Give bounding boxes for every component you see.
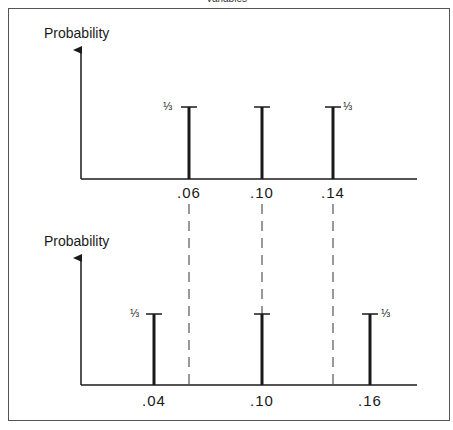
top-prob-label-left: ⅓ bbox=[163, 100, 172, 112]
top-y-axis-label: Probability bbox=[44, 25, 109, 41]
top-prob-label-right: ⅓ bbox=[343, 100, 352, 112]
bottom-tick-16: .16 bbox=[358, 392, 382, 409]
top-chart bbox=[81, 50, 417, 179]
chart-graphics bbox=[0, 0, 453, 430]
top-tick-06: .06 bbox=[177, 184, 201, 201]
bottom-prob-label-left: ⅓ bbox=[130, 307, 139, 319]
bottom-prob-label-right: ⅓ bbox=[381, 307, 390, 319]
top-tick-10: .10 bbox=[250, 184, 274, 201]
top-tick-14: .14 bbox=[321, 184, 345, 201]
bottom-chart bbox=[81, 258, 417, 385]
bottom-y-axis-label: Probability bbox=[44, 233, 109, 249]
bottom-tick-04: .04 bbox=[142, 392, 166, 409]
bottom-tick-10: .10 bbox=[250, 392, 274, 409]
